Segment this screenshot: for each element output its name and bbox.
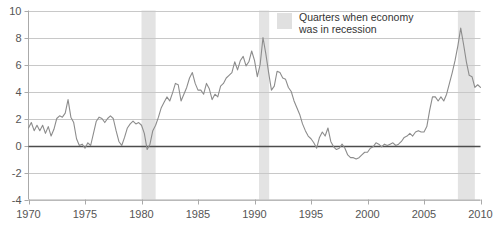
x-tick-label-2000: 2000 — [355, 208, 379, 220]
x-tick-label-1990: 1990 — [242, 208, 266, 220]
legend: Quarters when economywas in recession — [277, 11, 414, 35]
recession-growth-chart: -4-20246810 1970197519801985199019952000… — [0, 0, 497, 232]
x-tick-label-1975: 1975 — [73, 208, 97, 220]
legend-label-line1: Quarters when economy — [299, 11, 414, 23]
y-tick-label-8: 8 — [15, 32, 21, 44]
y-tick-label--4: -4 — [12, 194, 22, 206]
x-tick-label-2005: 2005 — [412, 208, 436, 220]
x-tick-label-1995: 1995 — [299, 208, 323, 220]
y-tick-labels: -4-20246810 — [9, 5, 21, 206]
y-tick-label-10: 10 — [9, 5, 21, 17]
x-tick-label-1980: 1980 — [129, 208, 153, 220]
y-tick-label-4: 4 — [15, 86, 21, 98]
legend-label-line2: was in recession — [298, 23, 377, 35]
y-tick-label-6: 6 — [15, 59, 21, 71]
x-tick-label-1985: 1985 — [186, 208, 210, 220]
x-axis — [29, 200, 482, 205]
x-tick-label-2010: 2010 — [468, 208, 492, 220]
y-tick-label-2: 2 — [15, 113, 21, 125]
x-tick-label-1970: 1970 — [16, 208, 40, 220]
chart-canvas: -4-20246810 1970197519801985199019952000… — [0, 0, 497, 232]
y-axis — [25, 11, 29, 201]
x-tick-labels: 197019751980198519901995200020052010 — [16, 208, 492, 220]
y-tick-label--2: -2 — [12, 167, 22, 179]
gridlines-group — [29, 12, 481, 201]
data-series-line — [29, 28, 481, 159]
legend-swatch-recession — [277, 13, 292, 29]
y-tick-label-0: 0 — [15, 140, 21, 152]
series-line-growth-rate — [29, 28, 481, 159]
